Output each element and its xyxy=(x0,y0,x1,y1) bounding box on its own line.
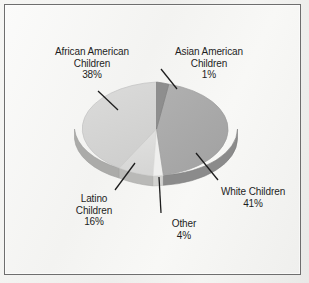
label-line1: Latino xyxy=(59,193,129,205)
label-line1: Asian American xyxy=(161,46,257,58)
label-white-children: White Children 41% xyxy=(215,186,291,209)
label-line2: Children xyxy=(59,205,129,217)
label-asian-american-children: Asian American Children 1% xyxy=(161,46,257,81)
label-other: Other 4% xyxy=(157,218,211,241)
label-percent: 4% xyxy=(157,230,211,242)
slice-side-other xyxy=(153,175,163,186)
figure-frame: African American Children 38% Asian Amer… xyxy=(4,4,301,275)
label-line1: Other xyxy=(157,218,211,230)
label-percent: 1% xyxy=(161,69,257,81)
label-percent: 41% xyxy=(215,198,291,210)
pie-chart-figure: African American Children 38% Asian Amer… xyxy=(0,0,309,283)
chart-area: African American Children 38% Asian Amer… xyxy=(5,5,300,274)
label-percent: 16% xyxy=(59,216,129,228)
label-line1: African American xyxy=(43,46,141,58)
label-latino-children: Latino Children 16% xyxy=(59,193,129,228)
label-line2: Children xyxy=(43,58,141,70)
label-african-american-children: African American Children 38% xyxy=(43,46,141,81)
label-line1: White Children xyxy=(215,186,291,198)
label-percent: 38% xyxy=(43,69,141,81)
label-line2: Children xyxy=(161,58,257,70)
